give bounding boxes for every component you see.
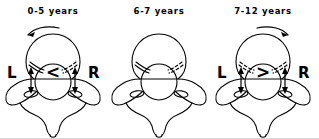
right-facet-oval [174, 90, 189, 98]
figure-bottom-rule [0, 138, 319, 139]
left-transverse-process [112, 79, 142, 105]
right-synchondrosis [168, 62, 182, 70]
panel-title-1: 6-7 years [106, 6, 212, 16]
vertebral-body-outline [132, 34, 186, 79]
asymmetry-symbol-2: > [210, 64, 316, 81]
panel-title-0: 0-5 years [0, 6, 106, 16]
right-lamina [266, 103, 296, 135]
spinal-canal-circle [141, 64, 177, 100]
left-synchondrosis [136, 62, 150, 70]
right-lamina [56, 103, 86, 135]
vertebra-age-figure: 0-5 years [0, 0, 319, 139]
spinous-process-tip [156, 135, 162, 137]
vertebra-panel-0: 0-5 years [0, 0, 106, 139]
asymmetry-symbol-0: < [0, 64, 106, 81]
spinous-process-tip [50, 135, 56, 137]
panel-title-2: 7-12 years [210, 6, 316, 16]
left-lamina [230, 103, 260, 135]
vertebra-panel-2: 7-12 years [210, 0, 316, 139]
vertebra-panel-1: 6-7 years [106, 0, 212, 139]
left-facet-oval [130, 90, 145, 98]
right-lamina [162, 103, 192, 135]
left-lamina [20, 103, 50, 135]
left-lamina [126, 103, 156, 135]
spinous-process-tip [260, 135, 266, 137]
right-transverse-process [176, 79, 206, 105]
vertebra-drawing-1 [106, 22, 212, 139]
